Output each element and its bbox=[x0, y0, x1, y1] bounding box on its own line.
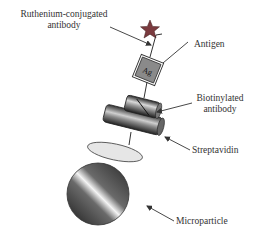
ruthenium-label-line1: Ruthenium-conjugated bbox=[14, 9, 114, 20]
biotinylated-label-line2: antibody bbox=[190, 104, 250, 115]
ruthenium-label: Ruthenium-conjugated antibody bbox=[14, 9, 114, 31]
antigen-pointer-line bbox=[163, 42, 188, 63]
streptavidin-pointer-arrow bbox=[165, 137, 190, 150]
biotinylated-label: Biotinylated antibody bbox=[190, 93, 250, 115]
diagram-canvas: Ag bbox=[0, 0, 258, 242]
biotinylated-pointer-arrow bbox=[157, 103, 192, 112]
ruthenium-label-line2: antibody bbox=[14, 20, 114, 31]
biotinylated-antibody bbox=[102, 90, 169, 136]
antigen-label: Antigen bbox=[194, 39, 225, 50]
streptavidin bbox=[86, 138, 144, 165]
streptavidin-label: Streptavidin bbox=[192, 145, 238, 156]
microparticle bbox=[67, 163, 129, 225]
linker-line bbox=[144, 82, 147, 98]
microparticle-pointer-arrow bbox=[147, 206, 174, 221]
antigen: Ag bbox=[132, 54, 163, 85]
linker-line bbox=[129, 132, 131, 145]
biotinylated-label-line1: Biotinylated bbox=[190, 93, 250, 104]
sandwich-immunoassay-diagram: Ag Ruthenium-conjugated antibody Antigen… bbox=[0, 0, 258, 242]
microparticle-label: Microparticle bbox=[176, 216, 228, 227]
